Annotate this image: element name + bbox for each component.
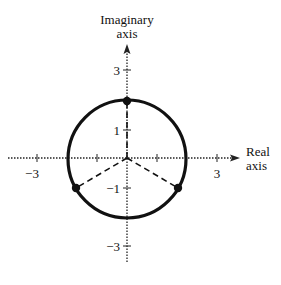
point-top <box>123 97 131 105</box>
x-tick-neg3: −3 <box>25 166 39 181</box>
y-tick-pos3: 3 <box>114 63 121 78</box>
radius-lines <box>76 102 178 188</box>
imaginary-axis-label: Imaginary <box>100 12 154 27</box>
y-tick-neg3: −3 <box>106 239 120 254</box>
imaginary-axis-label-2: axis <box>117 26 138 41</box>
imaginary-axis-arrow-icon <box>124 44 131 54</box>
real-axis-label: Real <box>246 144 270 159</box>
real-axis-label-2: axis <box>246 158 267 173</box>
complex-plane-diagram: Imaginary axis Real axis −3 3 3 1 −1 −3 <box>0 0 281 285</box>
y-tick-neg1: −1 <box>106 181 120 196</box>
y-tick-pos1: 1 <box>114 123 121 138</box>
x-tick-pos3: 3 <box>214 166 221 181</box>
point-lower-right <box>174 184 182 192</box>
point-lower-left <box>72 184 80 192</box>
